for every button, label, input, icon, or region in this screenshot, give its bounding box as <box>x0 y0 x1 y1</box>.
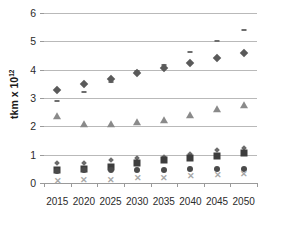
data-point <box>186 111 194 118</box>
y-axis-tick <box>40 155 44 156</box>
x-axis-tick-label: 2050 <box>227 196 261 208</box>
data-point <box>213 105 221 112</box>
plot-area: ✕✕✕✕✕✕✕✕ <box>44 13 257 183</box>
x-axis-tick <box>71 183 72 187</box>
y-axis-title: tkm x 1012 <box>8 52 21 136</box>
data-point <box>160 157 167 164</box>
data-point <box>240 101 248 108</box>
data-point: ✕ <box>187 173 194 180</box>
data-point <box>160 116 168 123</box>
gridline <box>44 155 257 156</box>
data-point <box>55 100 60 102</box>
data-point <box>53 113 61 120</box>
data-point <box>187 155 194 162</box>
data-point <box>240 150 247 157</box>
data-point <box>53 85 61 93</box>
y-axis-tick <box>40 98 44 99</box>
x-axis-tick <box>44 183 45 187</box>
y-axis-tick-label: 4 <box>24 65 36 75</box>
data-point <box>81 167 87 173</box>
y-axis-title-text: tkm x 10 <box>8 77 20 119</box>
data-point <box>214 153 221 160</box>
data-point <box>54 160 60 166</box>
data-point <box>107 120 115 127</box>
y-axis-tick <box>40 13 44 14</box>
data-point <box>188 51 193 53</box>
y-axis-tick-label: 2 <box>24 121 36 131</box>
y-axis-tick <box>40 70 44 71</box>
data-point: ✕ <box>214 172 221 179</box>
data-point: ✕ <box>240 171 247 178</box>
gridline <box>44 98 257 99</box>
y-axis-tick <box>40 41 44 42</box>
data-point: ✕ <box>134 175 141 182</box>
y-axis-tick-label: 3 <box>24 93 36 103</box>
data-point <box>213 54 221 62</box>
gridline <box>44 126 257 127</box>
x-axis-tick <box>124 183 125 187</box>
x-axis-tick <box>151 183 152 187</box>
x-axis-tick <box>177 183 178 187</box>
data-point <box>80 80 88 88</box>
y-axis-tick-labels: 0123456 <box>20 0 36 227</box>
y-axis-tick-label: 6 <box>24 8 36 18</box>
y-axis-tick <box>40 126 44 127</box>
x-axis-tick <box>257 183 258 187</box>
gridline <box>44 13 257 14</box>
data-point: ✕ <box>107 176 114 183</box>
gridline <box>44 70 257 71</box>
data-point <box>81 91 86 93</box>
data-point <box>160 64 168 72</box>
gridline <box>44 41 257 42</box>
data-point: ✕ <box>54 178 61 185</box>
y-axis-tick-label: 5 <box>24 36 36 46</box>
data-point <box>108 167 114 173</box>
x-axis-tick <box>230 183 231 187</box>
data-point <box>134 159 141 166</box>
x-axis-tick-labels: 20152020202520302035204020452050 <box>44 196 257 212</box>
data-point <box>239 48 247 56</box>
data-point <box>215 40 220 42</box>
data-point <box>54 168 60 174</box>
x-axis-tick <box>204 183 205 187</box>
data-point <box>186 59 194 67</box>
x-axis-tick <box>97 183 98 187</box>
data-point <box>134 167 140 173</box>
data-point <box>241 29 246 31</box>
y-axis-tick-label: 1 <box>24 150 36 160</box>
scatter-chart: tkm x 1012 0123456 ✕✕✕✕✕✕✕✕ 201520202025… <box>0 0 286 227</box>
data-point <box>80 120 88 127</box>
data-point <box>133 118 141 125</box>
data-point: ✕ <box>80 177 87 184</box>
y-axis-tick-label: 0 <box>24 178 36 188</box>
data-point: ✕ <box>160 174 167 181</box>
y-axis-title-exponent: 12 <box>8 70 15 77</box>
